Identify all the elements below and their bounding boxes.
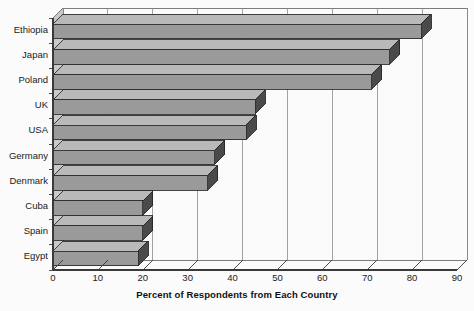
x-tick-label-90: 90 (437, 273, 474, 283)
bar (53, 125, 246, 139)
bar (53, 75, 372, 90)
bar-top-face (53, 241, 148, 251)
bar-group (53, 140, 225, 165)
x-tick (188, 260, 198, 270)
bar-top-face (53, 115, 256, 125)
bar (53, 226, 143, 241)
bar-group (53, 90, 265, 115)
bar (53, 50, 390, 65)
x-tick (367, 260, 377, 270)
x-axis-title: Percent of Respondents from Each Country (0, 289, 474, 300)
bar-top-face (53, 14, 431, 24)
bar (53, 201, 143, 216)
x-tick-label-0: 0 (33, 273, 73, 283)
x-tick-label-20: 20 (123, 273, 163, 283)
x-tick-label-60: 60 (302, 273, 342, 283)
bar-group (53, 65, 382, 90)
x-tick (277, 260, 287, 270)
x-tick-label-10: 10 (78, 273, 118, 283)
bar (53, 251, 138, 266)
bar (53, 24, 421, 38)
bar-group (53, 241, 148, 266)
bar-group (53, 115, 256, 139)
bar-group (53, 14, 431, 38)
bar (53, 150, 215, 165)
bar-group (53, 216, 153, 241)
bar-top-face (53, 191, 153, 201)
x-tick (322, 260, 332, 270)
bar-top-face (53, 90, 265, 100)
x-tick (233, 260, 243, 270)
bar-group (53, 191, 153, 216)
x-tick (457, 260, 467, 270)
bar-top-face (53, 40, 400, 50)
bar (53, 176, 208, 191)
x-tick-label-80: 80 (392, 273, 432, 283)
bar-top-face (53, 140, 225, 150)
x-tick-label-40: 40 (213, 273, 253, 283)
bar-chart: EthiopiaJapanPolandUKUSAGermanyDenmarkCu… (0, 0, 474, 311)
bar-top-face (53, 166, 218, 176)
x-tick (143, 260, 153, 270)
bar-group (53, 40, 400, 65)
bar-group (53, 166, 218, 191)
x-tick-label-50: 50 (257, 273, 297, 283)
plot-area (0, 0, 474, 311)
bar-top-face (53, 216, 153, 226)
x-tick-label-30: 30 (168, 273, 208, 283)
x-tick (412, 260, 422, 270)
bar (53, 100, 255, 115)
x-tick-label-70: 70 (347, 273, 387, 283)
bar-top-face (53, 65, 382, 75)
